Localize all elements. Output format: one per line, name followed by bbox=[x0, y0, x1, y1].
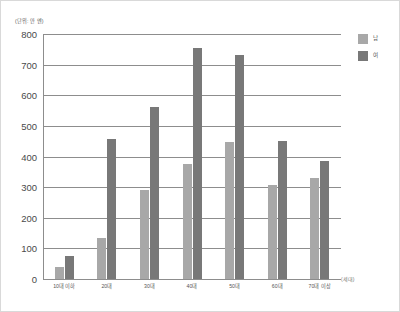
y-axis-tick-labels: 8007006005004003002001000 bbox=[1, 34, 37, 279]
bar-group bbox=[140, 34, 159, 279]
x-axis-caption: (세대) bbox=[341, 275, 354, 282]
y-tick-label-0: 0 bbox=[32, 274, 37, 285]
bar-여-30대 bbox=[150, 107, 159, 279]
bar-group bbox=[268, 34, 287, 279]
x-axis-tick-labels: 10대 이하20대30대40대50대60대70대 이상 bbox=[43, 282, 341, 296]
x-tick-label-40대: 40대 bbox=[187, 282, 198, 289]
bar-여-10대 이하 bbox=[65, 256, 74, 279]
y-axis-unit-caption: (단위: 만 엔) bbox=[15, 17, 44, 24]
bar-group bbox=[97, 34, 116, 279]
legend-swatch-icon bbox=[358, 34, 368, 44]
x-tick-label-50대: 50대 bbox=[229, 282, 240, 289]
bar-남-20대 bbox=[97, 238, 106, 279]
legend-item-여: 여 bbox=[358, 51, 398, 61]
legend-label: 여 bbox=[373, 53, 378, 59]
y-tick-label-700: 700 bbox=[21, 59, 37, 70]
bars-layer bbox=[43, 34, 341, 279]
legend-label: 남 bbox=[373, 36, 378, 42]
bar-남-70대 이상 bbox=[310, 178, 319, 279]
bar-여-50대 bbox=[235, 55, 244, 279]
y-tick-label-200: 200 bbox=[21, 212, 37, 223]
y-tick-label-600: 600 bbox=[21, 90, 37, 101]
gridline-0 bbox=[43, 279, 341, 280]
x-tick-label-60대: 60대 bbox=[272, 282, 283, 289]
chart-legend: 남여 bbox=[358, 34, 398, 68]
y-tick-label-800: 800 bbox=[21, 29, 37, 40]
legend-swatch-icon bbox=[358, 51, 368, 61]
bar-남-60대 bbox=[268, 185, 277, 279]
x-tick-label-20대: 20대 bbox=[101, 282, 112, 289]
y-tick-label-500: 500 bbox=[21, 120, 37, 131]
y-tick-label-400: 400 bbox=[21, 151, 37, 162]
bar-여-70대 이상 bbox=[320, 161, 329, 279]
x-tick-label-70대 이상: 70대 이상 bbox=[309, 282, 331, 289]
bar-group bbox=[310, 34, 329, 279]
y-tick-label-100: 100 bbox=[21, 243, 37, 254]
y-tick-label-300: 300 bbox=[21, 182, 37, 193]
bar-남-10대 이하 bbox=[55, 267, 64, 279]
bar-chart-figure: (단위: 만 엔) 8007006005004003002001000 10대 … bbox=[0, 0, 400, 312]
bar-여-20대 bbox=[107, 139, 116, 279]
bar-여-40대 bbox=[193, 48, 202, 279]
plot-area bbox=[43, 34, 341, 279]
bar-group bbox=[55, 34, 74, 279]
x-tick-label-10대 이하: 10대 이하 bbox=[53, 282, 75, 289]
x-tick-label-30대: 30대 bbox=[144, 282, 155, 289]
bar-남-30대 bbox=[140, 190, 149, 279]
bar-group bbox=[183, 34, 202, 279]
legend-item-남: 남 bbox=[358, 34, 398, 44]
bar-여-60대 bbox=[278, 141, 287, 279]
bar-group bbox=[225, 34, 244, 279]
bar-남-40대 bbox=[183, 164, 192, 279]
bar-남-50대 bbox=[225, 142, 234, 279]
